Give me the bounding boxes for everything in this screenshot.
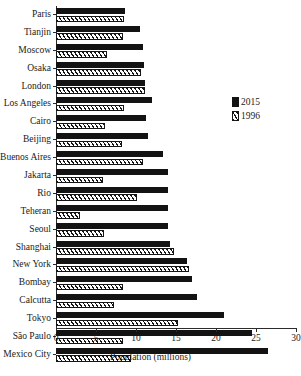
category-label: Los Angeles: [0, 95, 51, 113]
chart-row: Moscow: [56, 42, 296, 60]
x-axis-tick-label: 15: [164, 333, 188, 343]
x-axis-tick-label: 30: [284, 333, 301, 343]
x-axis-tick: [56, 328, 57, 332]
category-label: London: [0, 78, 51, 96]
category-label: Jakarta: [0, 167, 51, 185]
bar-2015: [56, 223, 168, 229]
bar-1996: [56, 123, 105, 130]
chart-row: Los Angeles: [56, 95, 296, 113]
bar-1996: [56, 230, 104, 237]
x-axis-tick: [216, 328, 217, 332]
category-label: Paris: [0, 6, 51, 24]
x-axis-tick-label: 10: [124, 333, 148, 343]
x-axis-tick: [136, 328, 137, 332]
x-axis-tick-label: 0: [44, 333, 68, 343]
bar-1996: [56, 87, 145, 94]
chart-row: Teheran: [56, 203, 296, 221]
bar-1996: [56, 194, 137, 201]
bar-2015: [56, 8, 125, 14]
bar-2015: [56, 115, 146, 121]
bar-1996: [56, 302, 114, 309]
bar-1996: [56, 69, 141, 76]
chart-row: Buenos Aires: [56, 149, 296, 167]
chart-row: Cairo: [56, 113, 296, 131]
category-label: Teheran: [0, 203, 51, 221]
category-label: Tokyo: [0, 310, 51, 328]
category-label: Tianjin: [0, 24, 51, 42]
bar-2015: [56, 80, 145, 86]
bar-2015: [56, 312, 224, 318]
bar-2015: [56, 187, 168, 193]
x-axis-tick: [256, 328, 257, 332]
chart-row: Paris: [56, 6, 296, 24]
chart-row: New York: [56, 256, 296, 274]
category-label: Shanghai: [0, 239, 51, 257]
bar-2015: [56, 294, 197, 300]
category-label: Osaka: [0, 60, 51, 78]
category-label: Calcutta: [0, 292, 51, 310]
bar-2015: [56, 258, 187, 264]
legend-swatch-2015: [232, 97, 239, 107]
chart-row: Calcutta: [56, 292, 296, 310]
bar-1996: [56, 16, 124, 23]
chart-row: Jakarta: [56, 167, 296, 185]
category-label: New York: [0, 256, 51, 274]
bar-2015: [56, 62, 144, 68]
chart-row: Osaka: [56, 60, 296, 78]
legend-entry-2015: 2015: [232, 96, 260, 108]
category-label: Cairo: [0, 113, 51, 131]
x-axis-tick: [96, 328, 97, 332]
bar-1996: [56, 177, 103, 184]
x-axis-tick-label: 20: [204, 333, 228, 343]
x-axis-tick-label: 25: [244, 333, 268, 343]
chart-row: London: [56, 78, 296, 96]
bar-1996: [56, 266, 189, 273]
bar-1996: [56, 320, 178, 327]
category-label: Moscow: [0, 42, 51, 60]
chart-row: Rio: [56, 185, 296, 203]
bar-2015: [56, 276, 192, 282]
bar-2015: [56, 44, 143, 50]
bar-1996: [56, 284, 123, 291]
bar-1996: [56, 141, 122, 148]
bar-2015: [56, 169, 168, 175]
bar-1996: [56, 105, 124, 112]
bar-1996: [56, 51, 107, 58]
bar-2015: [56, 205, 168, 211]
population-bar-chart: ParisTianjinMoscowOsakaLondonLos Angeles…: [0, 0, 301, 376]
bar-2015: [56, 97, 152, 103]
chart-row: Seoul: [56, 221, 296, 239]
chart-row: Beijing: [56, 131, 296, 149]
bar-1996: [56, 159, 143, 166]
category-label: Rio: [0, 185, 51, 203]
x-axis-tick: [176, 328, 177, 332]
category-label: Bombay: [0, 274, 51, 292]
chart-legend: 2015 1996: [232, 96, 260, 124]
legend-swatch-1996: [232, 111, 239, 121]
chart-row: Tokyo: [56, 310, 296, 328]
category-label: Buenos Aires: [0, 149, 51, 167]
x-axis-title: Population (millions): [0, 352, 301, 362]
category-label: Beijing: [0, 131, 51, 149]
chart-row: Tianjin: [56, 24, 296, 42]
bar-1996: [56, 248, 174, 255]
bar-2015: [56, 26, 140, 32]
bar-2015: [56, 241, 170, 247]
category-label: Seoul: [0, 221, 51, 239]
bar-2015: [56, 151, 163, 157]
legend-label-2015: 2015: [241, 97, 260, 107]
chart-row: Shanghai: [56, 239, 296, 257]
bar-1996: [56, 212, 80, 219]
legend-label-1996: 1996: [241, 111, 260, 121]
plot-area: ParisTianjinMoscowOsakaLondonLos Angeles…: [56, 6, 296, 328]
legend-entry-1996: 1996: [232, 110, 260, 122]
x-axis-tick-label: 5: [84, 333, 108, 343]
x-axis-tick: [296, 328, 297, 332]
chart-row: Bombay: [56, 274, 296, 292]
bar-2015: [56, 133, 148, 139]
bar-1996: [56, 33, 123, 40]
